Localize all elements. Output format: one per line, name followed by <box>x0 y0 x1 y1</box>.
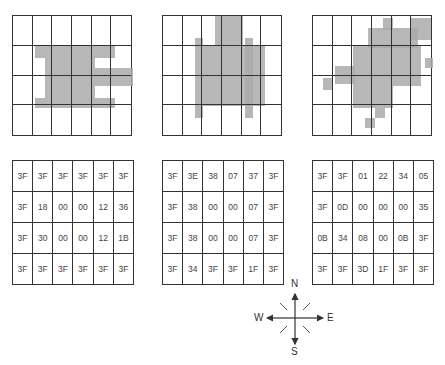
compass-south-label: S <box>291 346 298 357</box>
object-grid-3 <box>312 15 432 136</box>
object-grid-2 <box>162 15 282 136</box>
code-table-3: 3F3F01223405 3F0D00000035 0B3408000B3F 3… <box>312 160 434 285</box>
compass-north-label: N <box>291 278 298 289</box>
compass-east-label: E <box>327 312 334 323</box>
code-table-1: 3F3F3F3F3F3F 3F1800001236 3F300000121B 3… <box>12 160 134 285</box>
object-grid-1 <box>12 15 132 136</box>
compass-west-label: W <box>254 312 263 323</box>
compass-rose: N S W E <box>250 278 340 363</box>
code-table-2: 3F3E3807373F 3F380000073F 3F380000073F 3… <box>162 160 284 285</box>
